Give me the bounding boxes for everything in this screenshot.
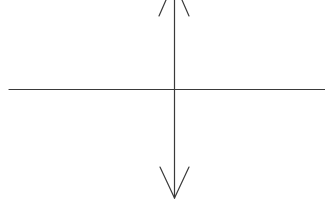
axes-diagram: [0, 0, 325, 199]
